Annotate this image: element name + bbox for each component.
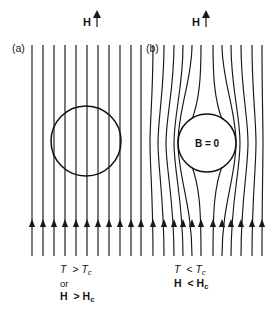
field-arrowhead-icon	[40, 219, 46, 227]
up-arrow-icon	[93, 10, 101, 27]
field-arrowhead-icon	[138, 219, 144, 227]
field-arrowhead-icon	[180, 219, 186, 227]
panel-b-condition-field: H < Hc	[174, 277, 208, 291]
up-arrow-icon	[202, 10, 210, 27]
field-arrowhead-icon	[238, 219, 244, 227]
panel-b-arrowheads	[150, 219, 265, 227]
panel-b-field-label-group: H	[192, 10, 210, 28]
field-arrowhead-icon	[161, 219, 167, 227]
field-arrowhead-icon	[210, 219, 216, 227]
field-arrowhead-icon	[29, 219, 35, 227]
panel-a-field-label-group: H	[83, 10, 101, 28]
panel-b-conditions: T < Tc H < Hc	[174, 263, 208, 291]
panel-a-label: (a)	[12, 42, 25, 54]
field-arrowhead-icon	[198, 219, 204, 227]
figure-canvas: H (a)	[0, 0, 269, 324]
field-arrowhead-icon	[95, 219, 101, 227]
field-arrowhead-icon	[259, 219, 265, 227]
panel-b: H (b)	[146, 10, 265, 291]
panel-b-interior-field-label: B = 0	[195, 138, 220, 149]
field-arrowhead-icon	[128, 219, 134, 227]
field-arrowhead-icon	[51, 219, 57, 227]
field-arrowhead-icon	[62, 219, 68, 227]
panel-a-condition-field: H > Hc	[60, 290, 94, 304]
panel-a: H (a)	[12, 10, 144, 304]
field-arrowhead-icon	[84, 219, 90, 227]
panel-b-condition-temperature: T < Tc	[174, 263, 206, 277]
panel-a-condition-or: or	[60, 278, 68, 289]
field-arrowhead-icon	[150, 219, 156, 227]
field-arrowhead-icon	[106, 219, 112, 227]
panel-a-field-symbol: H	[83, 16, 91, 28]
panel-a-conditions: T > Tc or H > Hc	[60, 263, 94, 304]
panel-a-condition-temperature: T > Tc	[60, 263, 92, 277]
field-arrowhead-icon	[117, 219, 123, 227]
panel-a-sample-sphere	[51, 106, 121, 176]
field-arrowhead-icon	[171, 219, 177, 227]
panel-b-field-symbol: H	[192, 16, 200, 28]
field-arrowhead-icon	[249, 219, 255, 227]
field-arrowhead-icon	[228, 219, 234, 227]
meissner-effect-figure: H (a)	[0, 0, 269, 324]
field-arrowhead-icon	[73, 219, 79, 227]
